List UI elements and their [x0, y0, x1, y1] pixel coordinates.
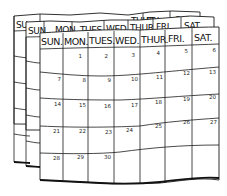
date-cell: 24 — [126, 127, 133, 133]
date-cell: 16 — [104, 103, 111, 109]
date-cell: 30 — [104, 154, 111, 160]
calendar-page-front: SUN. MON. TUES. WED. THUR. FRI. SAT. 1 2… — [40, 27, 219, 184]
date-cell: 19 — [183, 96, 190, 102]
date-cell: 7 — [58, 76, 62, 82]
date-cell: 22 — [79, 128, 86, 134]
date-cell: 17 — [131, 102, 138, 108]
date-cell: 12 — [183, 70, 190, 76]
date-cell: 14 — [54, 101, 61, 107]
date-cell: 10 — [131, 76, 138, 82]
header-wed: WED. — [115, 35, 139, 46]
date-cell: 21 — [53, 128, 60, 134]
date-cell: 13 — [209, 69, 216, 75]
header-mon: MON. — [64, 36, 88, 47]
date-cell: 9 — [108, 77, 112, 83]
header-sun: SUN. — [41, 36, 63, 47]
date-cell: 2 — [105, 53, 109, 59]
date-cell: 25 — [155, 123, 162, 129]
date-cell: 18 — [155, 99, 162, 105]
date-cell: 4 — [157, 50, 161, 56]
date-cell: 26 — [183, 119, 190, 125]
date-cell: 20 — [209, 94, 216, 100]
date-cell: 23 — [105, 129, 112, 135]
date-cell: 11 — [156, 74, 163, 80]
header-tues: TUES. — [88, 35, 115, 46]
header-thur: THUR. — [140, 34, 168, 45]
header-fri: FRI. — [168, 33, 184, 44]
date-cell: 28 — [53, 155, 60, 161]
date-cell: 15 — [79, 102, 86, 108]
date-cell: 1 — [79, 53, 83, 59]
date-cell: 27 — [210, 119, 217, 125]
date-cell: 6 — [213, 47, 217, 53]
date-cell: 3 — [132, 52, 136, 58]
header-sat: SAT. — [194, 32, 212, 43]
calendar-illustration: SU THUR FRI SAT SUN MON TUES WED THUR FR… — [0, 0, 227, 196]
date-cell: 5 — [185, 48, 189, 54]
date-cell: 29 — [77, 154, 84, 160]
date-cell: 8 — [83, 77, 87, 83]
